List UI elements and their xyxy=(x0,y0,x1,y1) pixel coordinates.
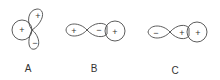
c-left-sign: − xyxy=(153,28,158,38)
diagram-c: − + + C xyxy=(148,22,207,76)
b-left-sign: + xyxy=(71,26,76,36)
a-s-sign: + xyxy=(19,25,24,35)
label-a: A xyxy=(25,63,32,74)
label-c: C xyxy=(171,65,178,76)
diagram-b: + − + B xyxy=(66,21,125,74)
c-right-sign: + xyxy=(179,28,184,38)
b-right-sign: − xyxy=(96,25,101,35)
orbital-overlap-figure: + + − A + − + B − + + C xyxy=(0,0,220,80)
c-left-p-lobe xyxy=(148,26,170,38)
a-upper-sign: + xyxy=(35,11,40,21)
label-b: B xyxy=(91,63,98,74)
diagram-a: + + − A xyxy=(12,9,43,74)
c-s-sign: + xyxy=(195,28,200,38)
b-s-sign: + xyxy=(112,27,117,37)
a-lower-sign: − xyxy=(32,38,37,48)
